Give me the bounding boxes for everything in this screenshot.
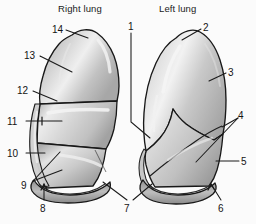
callout-label-14: 14 [52,24,63,35]
callout-label-4: 4 [238,110,244,121]
callout-label-11: 11 [7,116,17,127]
callout-label-13: 13 [24,50,35,61]
right-lung-title: Right lung [58,3,102,14]
callout-label-7: 7 [124,203,130,214]
lung-illustration [0,0,256,224]
left-lung-graphic [139,30,226,204]
callout-label-1: 1 [128,21,134,32]
callout-label-10: 10 [7,148,18,159]
callout-label-2: 2 [203,22,209,33]
callout-label-5: 5 [241,156,247,167]
callout-label-12: 12 [17,85,28,96]
callout-label-9: 9 [21,180,27,191]
callout-label-8: 8 [40,203,46,214]
callout-label-3: 3 [228,67,234,78]
callout-label-6: 6 [218,203,224,214]
lung-anatomy-figure: Right lung Left lung 1 2 3 4 5 6 7 8 9 1… [0,0,256,224]
right-lung-upper-lobe [40,30,119,104]
left-lung-title: Left lung [159,3,196,14]
